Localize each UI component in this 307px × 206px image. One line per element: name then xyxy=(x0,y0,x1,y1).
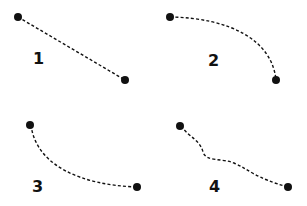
connector-curved xyxy=(170,17,276,80)
start-dot xyxy=(166,13,174,21)
panel-3-curved-reverse: 3 xyxy=(26,121,141,196)
panel-label-2: 2 xyxy=(208,51,219,70)
panel-2-curved: 2 xyxy=(166,13,280,84)
panel-4-wavy: 4 xyxy=(176,122,292,196)
panel-1-straight: 1 xyxy=(14,13,129,84)
start-dot xyxy=(14,13,22,21)
connector-wavy xyxy=(181,126,288,187)
connector-styles-diagram: 1 2 3 4 xyxy=(0,0,307,206)
diagram-svg: 1 2 3 4 xyxy=(0,0,307,206)
panel-label-4: 4 xyxy=(209,177,220,196)
start-dot xyxy=(176,122,184,130)
start-dot xyxy=(26,121,34,129)
end-dot xyxy=(272,76,280,84)
end-dot xyxy=(133,183,141,191)
connector-curved-reverse xyxy=(31,125,137,187)
end-dot xyxy=(284,183,292,191)
panel-label-1: 1 xyxy=(33,49,44,68)
end-dot xyxy=(121,76,129,84)
panel-label-3: 3 xyxy=(32,177,43,196)
